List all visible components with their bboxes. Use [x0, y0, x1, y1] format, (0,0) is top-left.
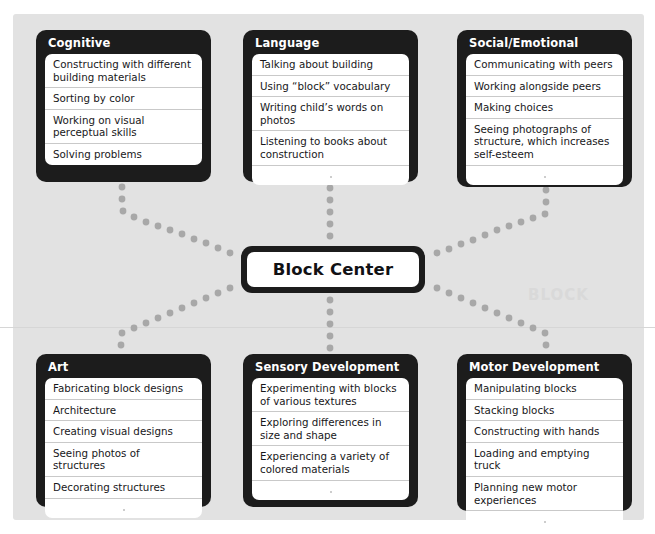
list-item[interactable]: Listening to books about construction [252, 131, 409, 165]
list-item[interactable]: Writing child’s words on photos [252, 97, 409, 131]
list-item[interactable]: Creating visual designs [45, 421, 202, 443]
list-item[interactable]: Working alongside peers [466, 76, 623, 98]
list-item[interactable]: Seeing photographs of structure, which i… [466, 119, 623, 166]
category-card-art[interactable]: Art Fabricating block designs Architectu… [36, 354, 211, 507]
list-item-blank [252, 166, 409, 185]
list-item[interactable]: Loading and emptying truck [466, 443, 623, 477]
category-title-sensory-development: Sensory Development [243, 354, 418, 378]
list-item[interactable]: Making choices [466, 97, 623, 119]
list-item-blank [252, 481, 409, 500]
category-card-cognitive[interactable]: Cognitive Constructing with different bu… [36, 30, 211, 182]
category-items-art: Fabricating block designs Architecture C… [45, 378, 202, 518]
list-item[interactable]: Talking about building [252, 54, 409, 76]
category-title-motor-development: Motor Development [457, 354, 632, 378]
category-title-art: Art [36, 354, 211, 378]
list-item[interactable]: Communicating with peers [466, 54, 623, 76]
list-item[interactable]: Fabricating block designs [45, 378, 202, 400]
category-items-sensory-development: Experimenting with blocks of various tex… [252, 378, 409, 500]
list-item[interactable]: Solving problems [45, 144, 202, 165]
list-item[interactable]: Constructing with hands [466, 421, 623, 443]
list-item[interactable]: Experiencing a variety of colored materi… [252, 446, 409, 480]
list-item[interactable]: Seeing photos of structures [45, 443, 202, 477]
center-node-block-center[interactable]: Block Center [241, 246, 425, 293]
watermark-text: BLOCK [528, 286, 638, 304]
list-item[interactable]: Exploring differences in size and shape [252, 412, 409, 446]
category-card-language[interactable]: Language Talking about building Using “b… [243, 30, 418, 182]
category-title-cognitive: Cognitive [36, 30, 211, 54]
list-item-blank [466, 511, 623, 530]
category-title-language: Language [243, 30, 418, 54]
list-item[interactable]: Using “block” vocabulary [252, 76, 409, 98]
list-item[interactable]: Stacking blocks [466, 400, 623, 422]
list-item-blank [466, 166, 623, 185]
category-card-sensory-development[interactable]: Sensory Development Experimenting with b… [243, 354, 418, 507]
list-item[interactable]: Decorating structures [45, 477, 202, 499]
category-card-motor-development[interactable]: Motor Development Manipulating blocks St… [457, 354, 632, 511]
center-node-label: Block Center [273, 260, 394, 279]
category-items-motor-development: Manipulating blocks Stacking blocks Cons… [466, 378, 623, 530]
diagram-page: BLOCK [0, 0, 655, 534]
list-item[interactable]: Experimenting with blocks of various tex… [252, 378, 409, 412]
category-items-cognitive: Constructing with different building mat… [45, 54, 202, 165]
center-node-inner: Block Center [247, 252, 419, 287]
list-item[interactable]: Sorting by color [45, 88, 202, 110]
list-item[interactable]: Manipulating blocks [466, 378, 623, 400]
list-item[interactable]: Constructing with different building mat… [45, 54, 202, 88]
scan-fold-line [0, 327, 655, 328]
category-items-language: Talking about building Using “block” voc… [252, 54, 409, 185]
category-title-social-emotional: Social/Emotional [457, 30, 632, 54]
list-item[interactable]: Architecture [45, 400, 202, 422]
category-items-social-emotional: Communicating with peers Working alongsi… [466, 54, 623, 185]
category-card-social-emotional[interactable]: Social/Emotional Communicating with peer… [457, 30, 632, 187]
list-item[interactable]: Planning new motor experiences [466, 477, 623, 511]
list-item[interactable]: Working on visual perceptual skills [45, 110, 202, 144]
list-item-blank [45, 499, 202, 518]
